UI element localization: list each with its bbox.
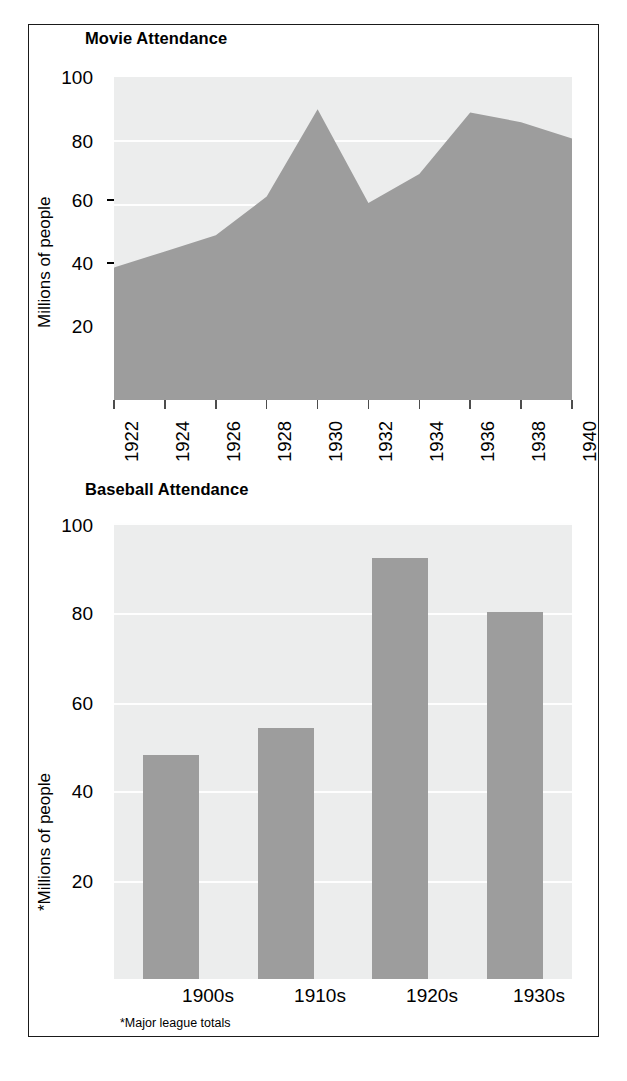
x-tick-label-1910s: 1910s [265, 985, 375, 1007]
y-tick-mark-40-movie [107, 262, 114, 264]
plot-area-baseball [114, 523, 572, 979]
x-tick-mark-1926 [215, 400, 217, 409]
x-tick-label-1928: 1928 [274, 421, 296, 462]
x-tick-mark-1922 [113, 400, 115, 409]
y-tick-label-100-movie: 100 [37, 68, 93, 87]
footnote-baseball: *Major league totals [120, 1016, 230, 1030]
y-tick-label-100-baseball: 100 [37, 516, 93, 535]
x-tick-label-1932: 1932 [375, 421, 397, 462]
x-tick-label-1900s: 1900s [153, 985, 263, 1007]
figure-frame: Movie Attendance Millions of people 100 … [28, 24, 599, 1037]
bar-1930s [487, 612, 543, 979]
x-tick-mark-1924 [164, 400, 166, 409]
chart-title-movie: Movie Attendance [85, 29, 227, 48]
x-tick-label-1920s: 1920s [377, 985, 487, 1007]
y-tick-label-80-movie: 80 [37, 132, 93, 151]
x-tick-mark-1928 [266, 400, 268, 409]
x-tick-label-1936: 1936 [477, 421, 499, 462]
area-series-movie [114, 77, 572, 400]
plot-area-movie [114, 77, 572, 400]
x-tick-label-1938: 1938 [528, 421, 550, 462]
y-tick-label-60-movie: 60 [37, 191, 93, 210]
gridline-100-baseball [114, 523, 572, 525]
x-tick-mark-1930 [317, 400, 319, 409]
x-tick-mark-1932 [368, 400, 370, 409]
x-tick-label-1924: 1924 [172, 421, 194, 462]
bar-1910s [258, 728, 314, 979]
y-tick-label-20-baseball: 20 [37, 872, 93, 891]
x-tick-label-1930s: 1930s [489, 985, 589, 1007]
x-tick-label-1930: 1930 [325, 421, 347, 462]
x-tick-label-1922: 1922 [121, 421, 143, 462]
bar-1900s [143, 755, 199, 979]
x-tick-mark-1934 [419, 400, 421, 409]
x-tick-label-1934: 1934 [426, 421, 448, 462]
x-tick-label-1926: 1926 [223, 421, 245, 462]
bar-1920s [372, 558, 428, 979]
y-tick-label-40-baseball: 40 [37, 782, 93, 801]
y-tick-mark-60-movie [107, 199, 114, 201]
chart-title-baseball: Baseball Attendance [85, 480, 249, 499]
x-tick-label-1940: 1940 [579, 421, 601, 462]
y-tick-label-80-baseball: 80 [37, 604, 93, 623]
y-tick-label-60-baseball: 60 [37, 694, 93, 713]
x-tick-mark-1938 [520, 400, 522, 409]
y-tick-label-40-movie: 40 [37, 254, 93, 273]
x-tick-mark-1936 [469, 400, 471, 409]
x-tick-mark-1940 [571, 400, 573, 409]
y-tick-label-20-movie: 20 [37, 317, 93, 336]
